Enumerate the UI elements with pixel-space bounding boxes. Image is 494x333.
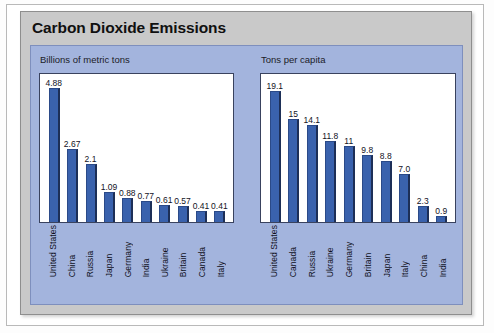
bar-value-label: 2.3 xyxy=(417,196,429,206)
category-label: United States xyxy=(48,225,58,277)
bar: 9.8 xyxy=(362,155,373,222)
category-slot: Italy xyxy=(396,225,415,277)
bar: 8.8 xyxy=(381,161,392,222)
category-label: Italy xyxy=(216,225,226,277)
category-label: Britain xyxy=(363,225,373,277)
bar-slot: 7.0 xyxy=(396,74,415,222)
bar: 0.57 xyxy=(178,206,189,222)
category-slot: Italy xyxy=(211,225,230,277)
category-slot: Ukraine xyxy=(156,225,175,277)
bar: 11 xyxy=(344,146,355,222)
category-label: Ukraine xyxy=(160,225,170,277)
chart-left-plot-area: 4.882.672.11.090.880.770.610.570.410.41 xyxy=(39,73,234,223)
bar-value-label: 11.8 xyxy=(322,131,338,141)
bar-slot: 15 xyxy=(285,74,304,222)
bar-slot: 0.88 xyxy=(119,74,137,222)
charts-panel: Billions of metric tons 4.882.672.11.090… xyxy=(30,45,463,305)
bar: 0.77 xyxy=(141,201,152,222)
category-slot: United States xyxy=(44,225,63,277)
bar-value-label: 0.77 xyxy=(137,191,154,201)
category-label: Germany xyxy=(344,225,354,277)
chart-tons-per-capita: Tons per capita 19.11514.111.8119.88.87.… xyxy=(252,46,464,306)
bar-value-label: 4.88 xyxy=(45,78,62,88)
bar-value-label: 0.88 xyxy=(119,188,136,198)
bar-slot: 8.8 xyxy=(377,74,396,222)
bar-value-label: 0.41 xyxy=(211,201,228,211)
category-label: India xyxy=(438,225,448,277)
chart-right-subtitle: Tons per capita xyxy=(261,54,325,65)
chart-left-category-axis: United StatesChinaRussiaJapanGermanyIndi… xyxy=(39,225,234,277)
bar-value-label: 14.1 xyxy=(303,115,320,125)
bar-slot: 0.57 xyxy=(174,74,192,222)
bar-value-label: 0.9 xyxy=(435,206,447,216)
category-label: China xyxy=(67,225,77,277)
page-root: Carbon Dioxide Emissions Billions of met… xyxy=(0,0,494,333)
category-slot: Ukraine xyxy=(321,225,340,277)
category-slot: United States xyxy=(265,225,284,277)
bar-value-label: 2.1 xyxy=(85,154,97,164)
bar-slot: 2.1 xyxy=(82,74,100,222)
bar-slot: 0.41 xyxy=(211,74,229,222)
chart-billions-metric-tons: Billions of metric tons 4.882.672.11.090… xyxy=(31,46,244,306)
bar-value-label: 19.1 xyxy=(266,81,283,91)
bar: 14.1 xyxy=(307,125,318,222)
category-slot: China xyxy=(415,225,434,277)
bar-value-label: 0.57 xyxy=(174,196,191,206)
category-label: Japan xyxy=(104,225,114,277)
bar: 1.09 xyxy=(104,192,115,222)
bar: 4.88 xyxy=(49,88,60,222)
category-slot: China xyxy=(63,225,82,277)
figure-container: Carbon Dioxide Emissions Billions of met… xyxy=(20,11,472,315)
category-slot: Canada xyxy=(193,225,212,277)
bar-slot: 11 xyxy=(340,74,359,222)
bar-slot: 4.88 xyxy=(45,74,63,222)
chart-right-bars: 19.11514.111.8119.88.87.02.30.9 xyxy=(261,74,455,222)
category-label: Canada xyxy=(288,225,298,277)
bar-value-label: 2.67 xyxy=(64,139,81,149)
category-slot: India xyxy=(137,225,156,277)
bar-slot: 0.77 xyxy=(137,74,155,222)
category-label: China xyxy=(419,225,429,277)
category-slot: Japan xyxy=(100,225,119,277)
bar-value-label: 7.0 xyxy=(398,164,410,174)
chart-left-bars: 4.882.672.11.090.880.770.610.570.410.41 xyxy=(40,74,233,222)
category-label: United States xyxy=(269,225,279,277)
category-slot: Japan xyxy=(377,225,396,277)
bar: 0.61 xyxy=(159,205,170,222)
bar-slot: 9.8 xyxy=(359,74,378,222)
category-label: Japan xyxy=(382,225,392,277)
category-label: Italy xyxy=(400,225,410,277)
category-label: Russia xyxy=(307,225,317,277)
bar: 7.0 xyxy=(399,174,410,222)
bar: 19.1 xyxy=(270,91,281,222)
bar: 2.67 xyxy=(67,149,78,222)
category-label: Russia xyxy=(85,225,95,277)
bar-value-label: 0.61 xyxy=(156,195,173,205)
category-slot: Germany xyxy=(118,225,137,277)
category-slot: Germany xyxy=(340,225,359,277)
bar-value-label: 0.41 xyxy=(193,201,210,211)
bar: 15 xyxy=(288,119,299,222)
bar-slot: 0.9 xyxy=(433,74,452,222)
bar-slot: 14.1 xyxy=(303,74,322,222)
bar: 0.41 xyxy=(214,211,225,222)
category-label: Britain xyxy=(178,225,188,277)
category-label: India xyxy=(141,225,151,277)
bar-slot: 19.1 xyxy=(266,74,285,222)
category-label: Germany xyxy=(123,225,133,277)
category-slot: Russia xyxy=(81,225,100,277)
chart-right-category-axis: United StatesCanadaRussiaUkraineGermanyB… xyxy=(260,225,456,277)
bar-slot: 1.09 xyxy=(100,74,118,222)
category-slot: Britain xyxy=(359,225,378,277)
figure-title: Carbon Dioxide Emissions xyxy=(32,19,226,37)
bar-value-label: 8.8 xyxy=(380,151,392,161)
bar-value-label: 9.8 xyxy=(361,145,373,155)
bar: 0.9 xyxy=(436,216,447,222)
bar: 2.3 xyxy=(418,206,429,222)
category-slot: Canada xyxy=(284,225,303,277)
bar: 0.88 xyxy=(122,198,133,222)
bar-slot: 2.3 xyxy=(414,74,433,222)
bar-slot: 2.67 xyxy=(63,74,81,222)
bar: 0.41 xyxy=(196,211,207,222)
category-slot: India xyxy=(433,225,452,277)
